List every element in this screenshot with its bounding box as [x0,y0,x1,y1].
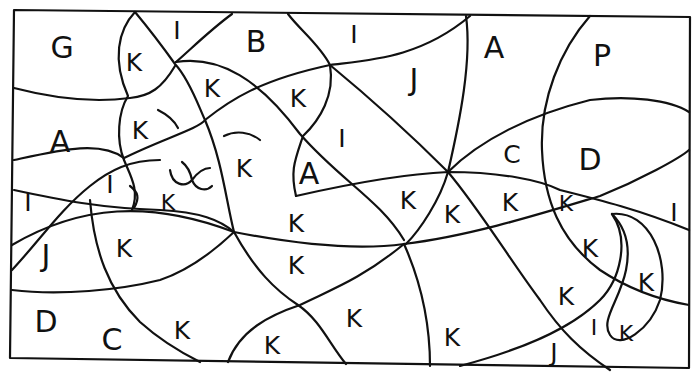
region-label-a: A [50,127,71,157]
curve [176,14,232,62]
region-label-p: P [593,41,611,71]
region-label-i: I [350,22,357,47]
region-label-b: B [246,27,267,57]
region-label-a: A [299,159,320,189]
region-label-k: K [559,193,573,215]
region-label-j: J [550,340,557,365]
region-label-k: K [638,270,654,295]
region-label-k: K [288,253,304,278]
region-label-k: K [264,333,280,358]
curve [14,16,470,160]
region-label-i: I [338,126,345,151]
region-label-d: D [34,307,57,337]
region-label-k: K [444,202,460,227]
region-label-i: I [173,18,180,43]
region-label-k: K [236,156,252,181]
curve [228,244,404,362]
region-label-j: J [42,241,51,271]
region-label-k: K [174,318,190,343]
curve [296,172,689,230]
region-label-k: K [502,190,518,215]
curve [542,16,689,305]
curve [14,66,175,100]
decor-stroke [224,133,260,140]
region-label-d: D [578,145,601,175]
region-label-i: I [670,200,677,225]
region-label-i: I [591,317,598,339]
region-label-c: C [102,325,123,355]
region-label-k: K [582,236,598,261]
curve [330,65,448,172]
region-label-k: K [290,86,306,111]
region-label-k: K [619,323,633,345]
region-label-k: K [126,50,142,75]
region-label-k: K [288,211,304,236]
decor-stroke [158,110,178,128]
region-label-i: I [24,190,31,215]
region-label-j: J [410,65,419,95]
region-label-a: A [484,33,505,63]
region-label-k: K [444,325,460,350]
region-label-c: C [503,142,520,167]
region-label-k: K [116,236,132,261]
curve [119,12,135,210]
curve [404,244,430,366]
curve [448,172,610,370]
curve [448,98,689,172]
decor-stroke [170,162,212,189]
region-label-k: K [346,306,362,331]
region-label-k: K [132,118,148,143]
region-label-i: I [106,172,113,197]
region-label-k: K [558,284,574,309]
region-label-k: K [204,76,220,101]
region-label-k: K [400,188,416,213]
region-label-k: K [161,192,175,214]
region-label-g: G [50,33,73,63]
